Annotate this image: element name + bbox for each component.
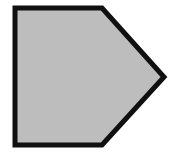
pentagon-shape-svg <box>0 0 174 160</box>
figure-canvas: pentagon Irregular convex pentagon resem… <box>0 0 174 160</box>
